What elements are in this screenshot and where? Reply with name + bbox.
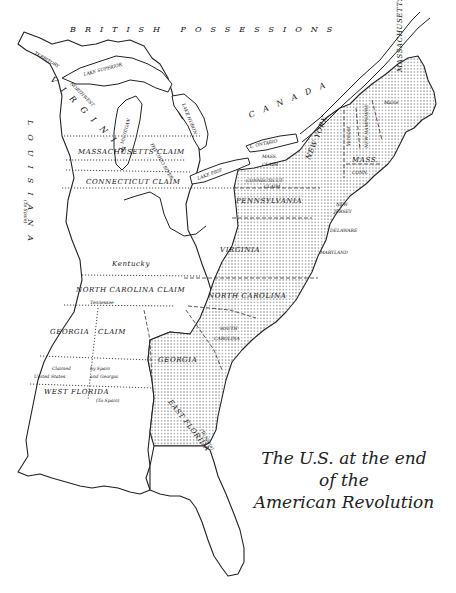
title-line-3: American Revolution bbox=[244, 491, 444, 513]
label-pennsylvania: PENNSYLVANIA bbox=[235, 197, 302, 205]
label-virginia: VIRGINIA bbox=[220, 246, 260, 254]
title-line-1: The U.S. at the end bbox=[244, 447, 444, 469]
label-mass-claim-ny-1: MASS. bbox=[261, 154, 278, 159]
label-disputed-2a: by Spain bbox=[90, 366, 110, 371]
label-canada: CANADA bbox=[247, 77, 335, 119]
label-tennessee: Tennessee bbox=[90, 300, 114, 305]
label-nc-claim: NORTH CAROLINA CLAIM bbox=[75, 286, 185, 294]
label-georgia-claim-2: CLAIM bbox=[98, 328, 126, 336]
label-west-florida: WEST FLORIDA bbox=[44, 388, 109, 396]
label-kentucky: Kentucky bbox=[111, 260, 150, 268]
label-mass-claim-ny-2: CLAIM bbox=[262, 162, 278, 167]
label-maine-part: Maine bbox=[383, 100, 399, 105]
label-connecticut: CONN. bbox=[352, 170, 369, 175]
label-north-carolina: NORTH CAROLINA bbox=[207, 292, 286, 300]
label-georgia: GEORGIA bbox=[158, 356, 197, 364]
label-disputed-1a: Claimed bbox=[52, 366, 71, 371]
title-line-2: of the bbox=[244, 469, 444, 491]
label-vermont: Vermont bbox=[346, 126, 351, 146]
map-title: The U.S. at the end of the American Revo… bbox=[244, 447, 444, 513]
label-british-possessions: BRITISH POSSESSIONS bbox=[69, 25, 341, 34]
label-west-florida-note: (To Spain) bbox=[96, 398, 120, 403]
label-new-jersey-2: JERSEY bbox=[333, 209, 353, 214]
label-new-hampshire: NEW HAMPSHIRE bbox=[364, 104, 369, 149]
label-south-carolina-1: SOUTH bbox=[220, 326, 238, 331]
label-conn-claim-pa-1: CONNECTICUT bbox=[246, 178, 284, 183]
label-disputed-1b: United States bbox=[34, 374, 66, 379]
label-delaware: DELAWARE bbox=[329, 228, 358, 233]
label-south-carolina-2: CAROLINA bbox=[214, 336, 240, 341]
label-georgia-claim-1: GEORGIA bbox=[50, 328, 89, 336]
label-massachusetts: MASSACHUSETTS bbox=[396, 0, 404, 73]
label-maryland: MARYLAND bbox=[319, 250, 348, 255]
label-massachusetts-claim: MASSACHUSETTS CLAIM bbox=[77, 148, 185, 156]
label-louisiana-note: (To Spain) bbox=[23, 200, 28, 224]
label-new-jersey-1: NEW bbox=[335, 202, 348, 207]
florida-peninsula bbox=[150, 446, 244, 576]
label-disputed-2b: and Georgia bbox=[90, 374, 118, 379]
label-conn-claim-pa-2: CLAIM bbox=[264, 184, 280, 189]
label-connecticut-claim: CONNECTICUT CLAIM bbox=[86, 178, 181, 186]
label-mass-abbrev: MASS. bbox=[351, 156, 379, 164]
label-louisiana: LOUISIANA bbox=[26, 119, 35, 250]
